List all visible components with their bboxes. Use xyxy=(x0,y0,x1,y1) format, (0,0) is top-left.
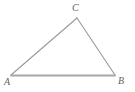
vertex-label-b: B xyxy=(118,76,124,86)
triangle-drawing xyxy=(0,0,135,92)
triangle-figure: A B C xyxy=(0,0,135,92)
side-CB-line xyxy=(77,18,115,75)
vertex-label-c: C xyxy=(72,3,79,13)
vertex-label-a: A xyxy=(4,77,10,87)
side-AC-line xyxy=(11,18,77,75)
